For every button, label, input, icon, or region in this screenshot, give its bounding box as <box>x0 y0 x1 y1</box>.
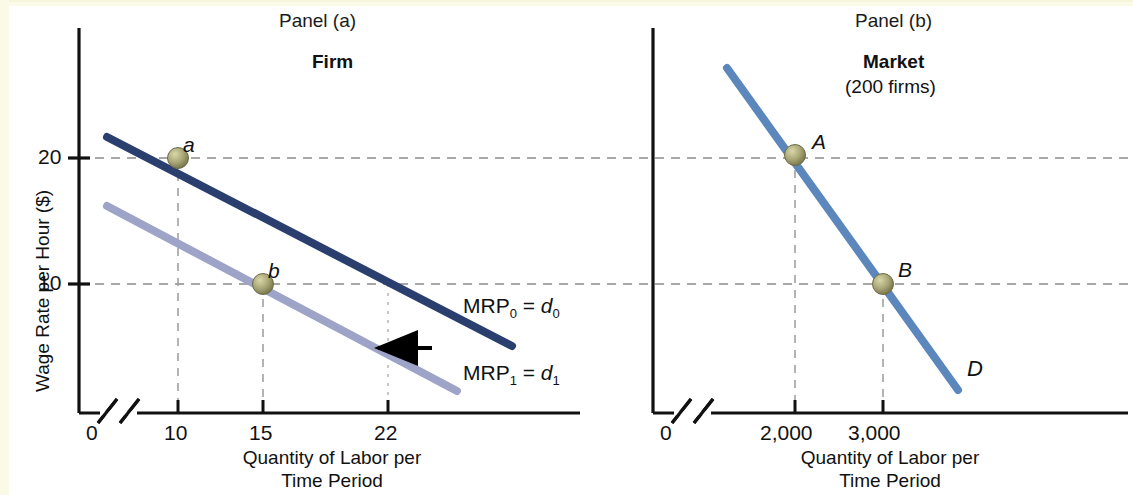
panel-a-curves <box>107 137 512 391</box>
curve-market-demand <box>727 68 958 390</box>
panel-a-point-label-a: a <box>183 133 195 157</box>
curve-label-mrp0-eq: = <box>517 294 541 317</box>
figure-canvas: Panel (a) Firm Wage Rate per Hour ($) 20… <box>0 0 1133 495</box>
curve-label-mrp0: MRP0 = d0 <box>463 294 560 322</box>
curve-label-mrp0-d: d <box>541 294 553 317</box>
panel-b-point-label-B: B <box>898 258 912 282</box>
panel-b-title: Panel (b) <box>855 10 932 31</box>
panel-a-markers <box>168 148 274 295</box>
panel-a-y-tick-10: 10 <box>38 271 61 295</box>
curve-label-mrp1-eq: = <box>517 361 541 384</box>
panel-b-curves <box>727 68 958 390</box>
marker-point-A <box>785 145 806 166</box>
panel-a-x-axis-title-line1: Quantity of Labor per <box>217 447 447 468</box>
curve-label-market-demand: D <box>967 357 983 382</box>
curve-label-mrp0-main: MRP <box>463 294 510 317</box>
panel-b-point-label-A: A <box>812 130 826 154</box>
panel-a-x-tick-10: 10 <box>164 421 187 445</box>
marker-point-B <box>873 274 894 295</box>
curve-label-mrp0-sub: 0 <box>510 306 517 321</box>
curve-label-mrp0-dsub: 0 <box>553 306 560 321</box>
panel-b-x-axis-title-line1: Quantity of Labor per <box>775 447 1005 468</box>
panel-b-x-tick-2000: 2,000 <box>760 421 813 445</box>
curve-label-mrp1-main: MRP <box>463 361 510 384</box>
panel-a-origin-label: 0 <box>86 421 98 445</box>
curve-label-mrp1-dsub: 1 <box>553 373 560 388</box>
curve-mrp1 <box>107 206 457 391</box>
panel-b-x-axis-title-line2: Time Period <box>775 470 1005 491</box>
panel-b-subtitle-firm-count: (200 firms) <box>845 76 936 97</box>
curve-label-mrp1-sub: 1 <box>510 373 517 388</box>
panel-a-x-axis-title-line2: Time Period <box>217 470 447 491</box>
curve-label-mrp1: MRP1 = d1 <box>463 361 560 389</box>
curve-label-mrp1-d: d <box>541 361 553 384</box>
panel-a-x-tick-22: 22 <box>374 421 397 445</box>
panel-b-x-tick-3000: 3,000 <box>848 421 901 445</box>
panel-a-point-label-b: b <box>268 259 280 283</box>
panel-b-subtitle: Market <box>863 51 924 72</box>
panel-a-x-tick-15: 15 <box>249 421 272 445</box>
panel-a-subtitle: Firm <box>312 51 353 72</box>
panel-b-origin-label: 0 <box>660 421 672 445</box>
panel-a-y-tick-20: 20 <box>38 145 61 169</box>
panel-a-title: Panel (a) <box>279 10 356 31</box>
